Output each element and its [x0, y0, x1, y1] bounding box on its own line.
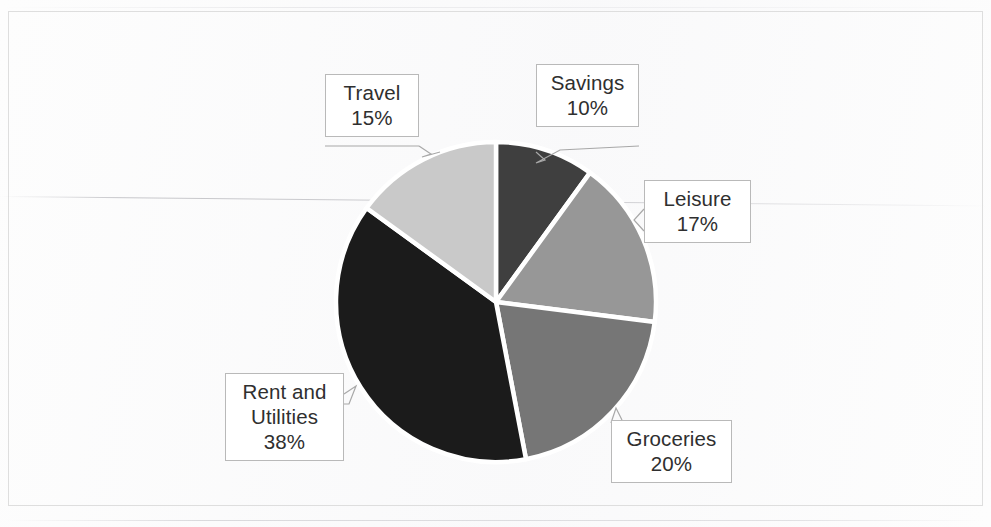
callout-travel-name: Travel [335, 80, 409, 105]
callout-label-travel[interactable]: Travel 15% [325, 74, 419, 137]
callout-rent-value: 38% [235, 429, 334, 454]
callout-rent-name-line2: Utilities [235, 404, 334, 429]
callout-label-groceries[interactable]: Groceries 20% [611, 420, 732, 483]
callout-groceries-name: Groceries [621, 426, 722, 451]
callout-travel-value: 15% [335, 105, 409, 130]
callout-leisure-name: Leisure [654, 186, 741, 211]
pie-chart-svg [0, 0, 991, 527]
callout-label-leisure[interactable]: Leisure 17% [644, 180, 751, 243]
chart-screenshot: Savings 10% Travel 15% Leisure 17% Groce… [0, 0, 991, 527]
callout-groceries-value: 20% [621, 451, 722, 476]
callout-leisure-value: 17% [654, 211, 741, 236]
callout-savings-name: Savings [546, 70, 629, 95]
callout-rent-name-line1: Rent and [235, 379, 334, 404]
callout-label-savings[interactable]: Savings 10% [536, 64, 639, 127]
callout-label-rent-and-utilities[interactable]: Rent and Utilities 38% [225, 373, 344, 461]
callout-savings-value: 10% [546, 95, 629, 120]
pie-chart [0, 0, 991, 527]
